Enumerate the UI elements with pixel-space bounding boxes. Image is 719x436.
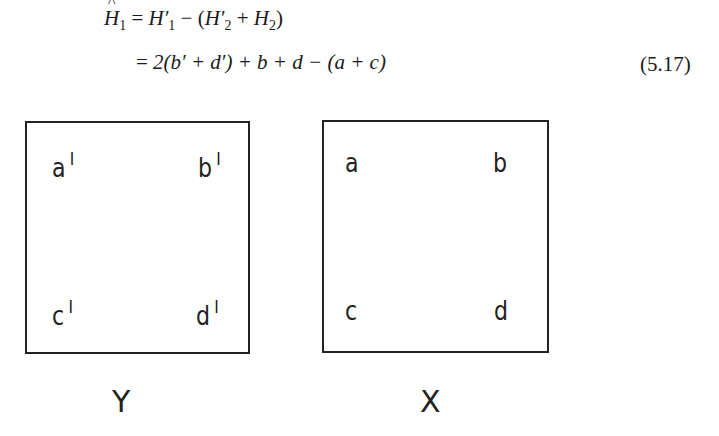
caption-x: X xyxy=(420,384,441,419)
label-text: b xyxy=(198,153,212,183)
paren: ( xyxy=(198,6,205,30)
prime-mark: I xyxy=(68,296,73,317)
equation-line-1: H1 = H′1 − (H′2 + H2) xyxy=(104,6,283,34)
term: H xyxy=(254,6,269,30)
caption-y: Y xyxy=(112,384,130,419)
subscript: 1 xyxy=(119,18,126,33)
equals-sign: = xyxy=(136,50,148,74)
prime-mark: I xyxy=(70,148,75,169)
equation-rhs: 2(b′ + d′) + b + d − (a + c) xyxy=(153,50,386,74)
label-b: b xyxy=(493,148,507,178)
h-hat-symbol: H xyxy=(104,6,119,31)
label-c-prime: cI xyxy=(52,296,73,331)
equation-line-2: = 2(b′ + d′) + b + d − (a + c) xyxy=(136,50,386,75)
label-a-prime: aI xyxy=(52,148,74,183)
subscript: 2 xyxy=(224,18,231,33)
term: H′ xyxy=(205,6,225,30)
label-text: d xyxy=(196,301,210,331)
equation-number: (5.17) xyxy=(640,52,691,77)
label-c: c xyxy=(345,296,357,326)
minus-sign: − xyxy=(181,6,193,30)
prime-mark: I xyxy=(214,296,219,317)
plus-sign: + xyxy=(237,6,249,30)
label-d-prime: dI xyxy=(196,296,219,331)
subscript: 1 xyxy=(168,18,175,33)
label-a: a xyxy=(345,148,359,178)
label-d: d xyxy=(494,296,508,326)
subscript: 2 xyxy=(269,18,276,33)
equals-sign: = xyxy=(131,6,143,30)
label-text: a xyxy=(52,153,66,183)
paren: ) xyxy=(276,6,283,30)
label-text: c xyxy=(52,301,64,331)
prime-mark: I xyxy=(216,148,221,169)
term: H′ xyxy=(149,6,169,30)
label-b-prime: bI xyxy=(198,148,221,183)
